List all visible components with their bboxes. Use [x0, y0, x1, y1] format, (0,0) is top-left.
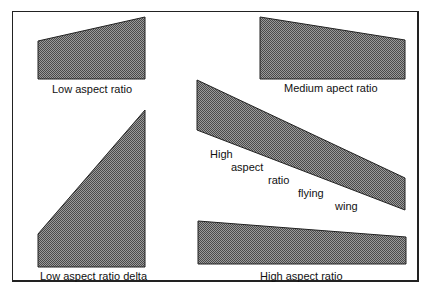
delta-wing	[38, 110, 145, 267]
high-aspect-ratio-wing	[198, 221, 406, 264]
low-aspect-ratio-wing	[38, 17, 145, 79]
label-low-aspect-ratio: Low aspect ratio	[52, 83, 132, 95]
label-flying-wing-word-4: flying	[298, 187, 324, 199]
medium-aspect-ratio-wing	[260, 17, 405, 79]
label-flying-wing-word-5: wing	[335, 200, 358, 212]
label-flying-wing-word-1: High	[210, 148, 233, 160]
label-flying-wing-word-3: ratio	[268, 174, 289, 186]
label-low-aspect-ratio-delta: Low aspect ratio delta	[40, 270, 147, 282]
label-flying-wing-word-2: aspect	[231, 161, 263, 173]
label-medium-aspect-ratio: Medium apect ratio	[284, 82, 378, 94]
label-high-aspect-ratio: High aspect ratio	[260, 270, 343, 282]
